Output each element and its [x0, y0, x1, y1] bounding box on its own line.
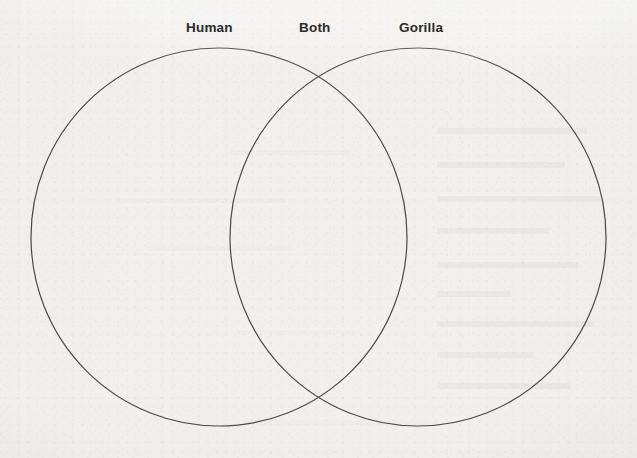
venn-diagram: [0, 0, 637, 458]
venn-circle-human[interactable]: [31, 48, 407, 426]
venn-label-both: Both: [299, 21, 331, 35]
venn-label-human: Human: [186, 21, 233, 35]
venn-label-gorilla: Gorilla: [399, 21, 443, 35]
venn-circle-gorilla[interactable]: [230, 48, 606, 426]
worksheet-page: Human Both Gorilla: [0, 0, 637, 458]
